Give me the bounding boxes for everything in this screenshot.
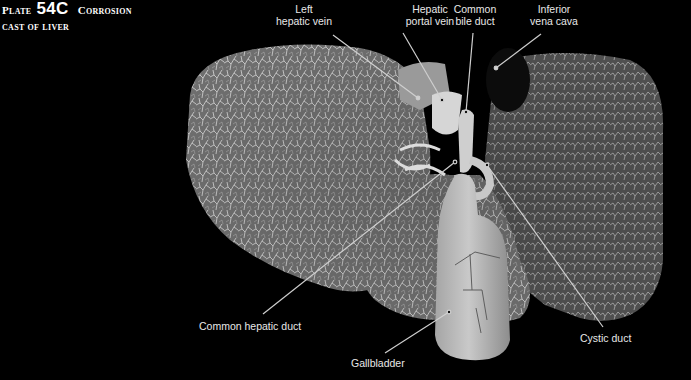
label-line: Cystic duct (580, 332, 631, 344)
label-gallbladder: Gallbladder (351, 357, 405, 369)
label-line: Gallbladder (351, 357, 405, 369)
label-cystic-duct: Cystic duct (580, 332, 631, 344)
label-left-hepatic-vein: Left hepatic vein (273, 3, 335, 27)
label-line: Inferior (524, 3, 584, 15)
label-line: Left (273, 3, 335, 15)
label-inferior-vena-cava: Inferior vena cava (524, 3, 584, 27)
label-line: hepatic vein (273, 15, 335, 27)
label-line: bile duct (450, 15, 500, 27)
label-common-hepatic-duct: Common hepatic duct (199, 320, 301, 332)
label-common-bile-duct: Common bile duct (450, 3, 500, 27)
liver-corrosion-cast-image (0, 0, 691, 380)
label-line: vena cava (524, 15, 584, 27)
inferior-vena-cava-structure (486, 48, 530, 112)
hepatic-portal-vein-structure (432, 92, 462, 135)
label-line: Common (450, 3, 500, 15)
label-line: Common hepatic duct (199, 320, 301, 332)
